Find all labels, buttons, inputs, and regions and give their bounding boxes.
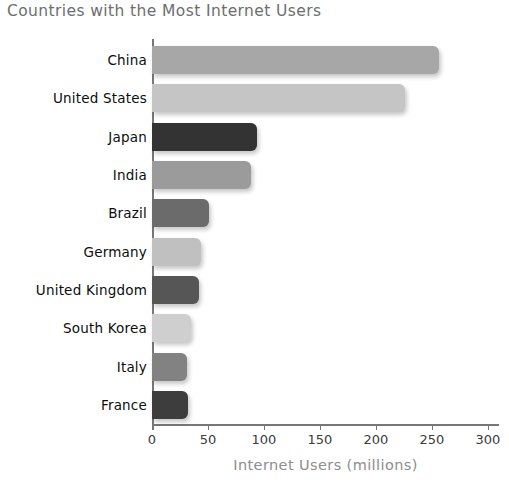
x-tick-mark: [488, 424, 490, 430]
bar: [152, 46, 439, 74]
bar: [152, 84, 405, 112]
category-label: China: [0, 52, 147, 68]
category-label: India: [0, 167, 147, 183]
bar: [152, 161, 251, 189]
x-tick-label: 200: [363, 432, 388, 447]
x-tick-label: 50: [200, 432, 217, 447]
chart-title: Countries with the Most Internet Users: [7, 2, 321, 20]
x-tick-label: 0: [148, 432, 156, 447]
bar-chart: Countries with the Most Internet Users C…: [0, 0, 509, 485]
x-tick-label: 150: [307, 432, 332, 447]
category-label: Japan: [0, 129, 147, 145]
category-label: Brazil: [0, 205, 147, 221]
bar: [152, 199, 209, 227]
category-label: France: [0, 397, 147, 413]
x-tick-mark: [432, 424, 434, 430]
x-tick-mark: [152, 424, 154, 430]
x-axis-line: [152, 424, 499, 426]
x-axis-title: Internet Users (millions): [152, 457, 499, 473]
bar: [152, 238, 201, 266]
plot-area: [152, 41, 509, 424]
x-tick-label: 100: [252, 432, 277, 447]
category-label: Italy: [0, 359, 147, 375]
bar: [152, 391, 188, 419]
x-tick-mark: [208, 424, 210, 430]
x-tick-label: 250: [419, 432, 444, 447]
bar: [152, 123, 257, 151]
bar: [152, 276, 199, 304]
x-tick-mark: [376, 424, 378, 430]
category-axis-labels: ChinaUnited StatesJapanIndiaBrazilGerman…: [0, 41, 147, 424]
category-label: United States: [0, 90, 147, 106]
bar: [152, 314, 191, 342]
category-label: United Kingdom: [0, 282, 147, 298]
category-label: Germany: [0, 244, 147, 260]
x-tick-mark: [264, 424, 266, 430]
x-tick-label: 300: [475, 432, 500, 447]
category-label: South Korea: [0, 320, 147, 336]
x-tick-mark: [320, 424, 322, 430]
bar: [152, 353, 187, 381]
